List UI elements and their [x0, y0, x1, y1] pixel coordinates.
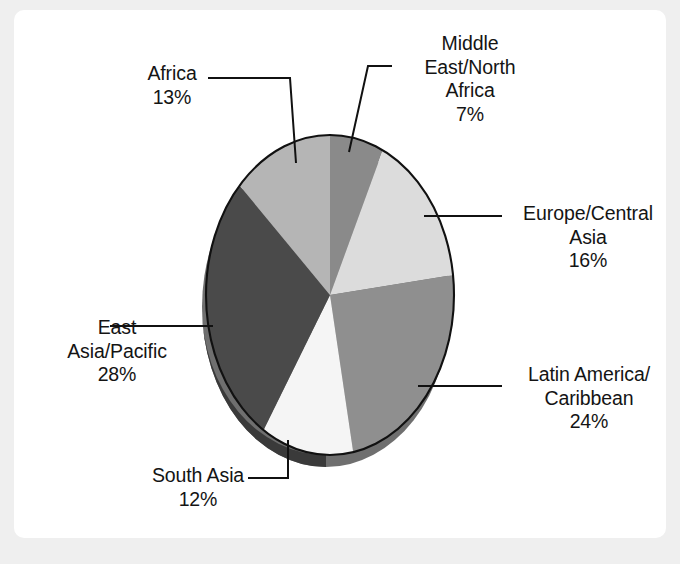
pie-label-south-asia: South Asia 12%	[120, 464, 276, 511]
pie-label-text-line1: East	[38, 316, 196, 340]
pie-label-text-line2: East/North	[395, 56, 545, 80]
pie-label-middle-east-north-africa: Middle East/North Africa 7%	[395, 32, 545, 126]
pie-label-africa: Africa 13%	[108, 62, 236, 109]
pie-label-europe-central-asia: Europe/Central Asia 16%	[505, 202, 671, 273]
pie-label-percent: 13%	[108, 86, 236, 110]
pie-label-text-line2: Asia/Pacific	[38, 340, 196, 364]
pie-label-text-line1: South Asia	[120, 464, 276, 488]
pie-label-percent: 12%	[120, 488, 276, 512]
chart-plot-area: Middle East/North Africa 7% Africa 13% E…	[0, 0, 680, 564]
pie-label-east-asia-pacific: East Asia/Pacific 28%	[38, 316, 196, 387]
pie-label-text-line1: Africa	[108, 62, 236, 86]
pie-label-text-line1: Middle	[395, 32, 545, 56]
pie-label-text-line1: Europe/Central	[505, 202, 671, 226]
pie-label-text-line1: Latin America/	[505, 363, 673, 387]
pie-label-percent: 24%	[505, 410, 673, 434]
pie-label-percent: 7%	[395, 103, 545, 127]
pie-label-latin-america-caribbean: Latin America/ Caribbean 24%	[505, 363, 673, 434]
pie-chart-figure: Middle East/North Africa 7% Africa 13% E…	[0, 0, 680, 564]
pie-label-text-line2: Caribbean	[505, 387, 673, 411]
pie-slices	[206, 135, 454, 455]
pie-label-percent: 28%	[38, 363, 196, 387]
pie-label-text-line3: Africa	[395, 79, 545, 103]
pie-svg	[0, 0, 680, 564]
pie-label-percent: 16%	[505, 249, 671, 273]
pie-label-text-line2: Asia	[505, 226, 671, 250]
